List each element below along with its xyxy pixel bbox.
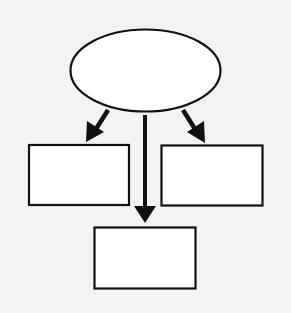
left-node: [29, 145, 129, 205]
right-node: [162, 146, 263, 206]
arrowhead-icon: [134, 206, 156, 223]
diagram-canvas: [0, 0, 291, 313]
right-box: [162, 146, 263, 206]
arrow-root-to-right: [183, 110, 205, 143]
root-ellipse: [71, 30, 221, 112]
arrow-root-to-bottom: [134, 115, 156, 223]
left-box: [29, 145, 129, 205]
bottom-box: [95, 228, 196, 289]
bottom-node: [95, 228, 196, 289]
arrow-root-to-left: [86, 110, 108, 142]
root-node: [71, 30, 221, 112]
